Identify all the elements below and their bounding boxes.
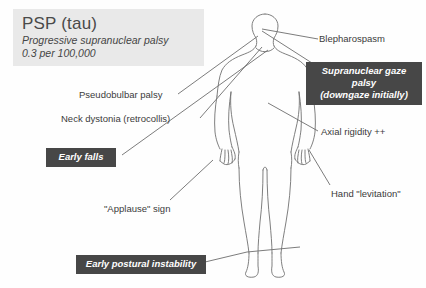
leader-line-blepharospasm <box>262 29 318 39</box>
label-neck-dystonia: Neck dystonia (retrocollis) <box>61 113 170 125</box>
callout-line-1: Early falls <box>50 151 112 163</box>
callout-early-falls: Early falls <box>46 148 116 167</box>
callout-early-postural-instability: Early postural instability <box>76 255 206 274</box>
label-blepharospasm: Blepharospasm <box>319 33 385 45</box>
callout-line-3: (downgaze initially) <box>310 89 418 101</box>
page-title: PSP (tau) <box>22 13 204 34</box>
figure-neck-shoulder-left <box>217 46 256 96</box>
figure-hip-left <box>238 152 239 168</box>
figure-torso-right <box>291 92 299 152</box>
figure-leg-left-inner <box>258 170 263 253</box>
figure-head <box>265 14 278 46</box>
figure-crotch <box>263 167 267 170</box>
figure-torso-left <box>231 92 239 152</box>
leader-line-applause-sign <box>170 160 213 200</box>
figure-arm-left-outer <box>215 96 220 149</box>
figure-hand-right <box>295 147 310 165</box>
label-applause-sign: "Applause" sign <box>104 203 170 215</box>
leader-line-axial-rigidity <box>268 103 318 131</box>
figure-arm-left-inner <box>229 92 232 147</box>
leader-line-postural-instability <box>205 252 247 262</box>
diagram-canvas: PSP (tau) Progressive supranuclear palsy… <box>0 0 426 288</box>
leader-line-supranuclear-gaze <box>262 31 312 63</box>
figure-arm-right-inner <box>298 92 301 147</box>
leader-line-neck-dystonia <box>200 47 262 118</box>
leader-line-postural-instability-extension <box>247 247 300 252</box>
title-prevalence: 0.3 per 100,000 <box>22 47 204 60</box>
title-card: PSP (tau) Progressive supranuclear palsy… <box>13 9 204 66</box>
title-subtitle: Progressive supranuclear palsy <box>22 34 204 47</box>
label-hand-levitation: Hand "levitation" <box>331 188 401 200</box>
figure-foot-left <box>245 253 258 277</box>
callout-line-1: Supranuclear gaze <box>310 65 418 77</box>
figure-head-left <box>252 14 265 46</box>
figure-leg-right-inner <box>267 170 272 253</box>
callout-line-1: Early postural instability <box>80 258 202 270</box>
figure-foot-right <box>272 253 285 277</box>
figure-leg-left-outer <box>239 168 249 253</box>
callout-supranuclear-gaze-palsy: Supranuclear gaze palsy (downgaze initia… <box>306 62 422 105</box>
callout-line-2: palsy <box>310 77 418 89</box>
figure-hip-right <box>291 152 292 168</box>
figure-hand-left <box>220 147 235 165</box>
figure-leg-right-outer <box>281 168 291 253</box>
label-axial-rigidity: Axial rigidity ++ <box>321 126 385 138</box>
leader-line-hand-levitation <box>309 150 330 185</box>
label-pseudobulbar-palsy: Pseudobulbar palsy <box>79 89 162 101</box>
figure-clavicle <box>256 48 274 52</box>
